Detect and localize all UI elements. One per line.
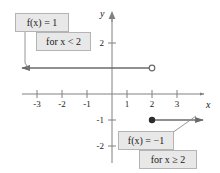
y-axis-arrow [109, 11, 116, 19]
y-tick-label--1: -1 [88, 115, 104, 125]
x-tick-label--1: -1 [80, 99, 94, 109]
y-axis-label: y [100, 8, 104, 19]
callout-bottom-leader [172, 116, 196, 133]
callout-top-formula: f(x) = 1 [15, 13, 69, 32]
x-tick-label--3: -3 [30, 99, 44, 109]
x-tick-label-2: 2 [146, 99, 158, 109]
x-tick-label-1: 1 [121, 99, 133, 109]
piecewise-function-figure: y x -3 -2 -1 1 2 3 2 -1 -2 f(x) = 1 for … [0, 0, 220, 173]
y-tick-label--2: -2 [88, 141, 104, 151]
x-tick-label--2: -2 [55, 99, 69, 109]
callout-bottom-condition: for x ≥ 2 [139, 150, 197, 169]
x-axis-label: x [206, 99, 210, 110]
y-tick-label-2: 2 [92, 38, 104, 48]
callout-top-leader [25, 30, 29, 69]
open-circle-endpoint [149, 65, 155, 71]
x-tick-label-3: 3 [171, 99, 183, 109]
callout-top-condition: for x < 2 [36, 32, 91, 51]
callout-bottom-formula: f(x) = −1 [118, 131, 174, 150]
filled-circle-endpoint [149, 117, 155, 123]
